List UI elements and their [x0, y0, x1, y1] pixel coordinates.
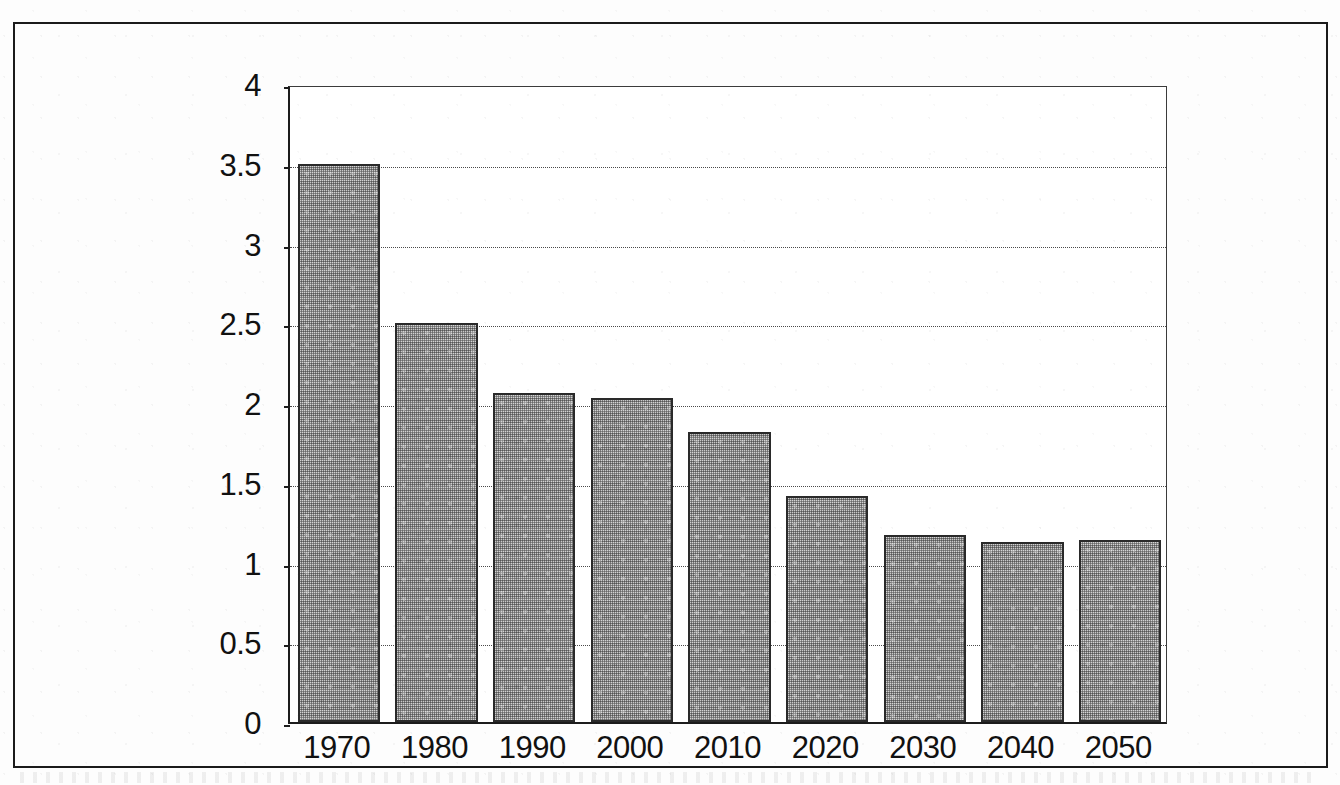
bar-texture [690, 434, 769, 720]
bar-texture [788, 498, 867, 720]
bar-texture [886, 537, 965, 720]
y-axis-tick-label: 3 [244, 228, 261, 264]
bar-texture [495, 395, 574, 720]
bar [786, 496, 869, 722]
y-axis-tick [284, 566, 290, 568]
x-axis-tick-label: 2020 [792, 730, 859, 766]
gridline [290, 167, 1166, 168]
y-axis-tick-label: 2 [244, 387, 261, 423]
x-axis-tick-label: 2030 [889, 730, 956, 766]
bar [298, 164, 381, 722]
y-axis-tick [284, 326, 290, 328]
x-axis-tick-label: 2050 [1085, 730, 1152, 766]
y-axis-tick [284, 247, 290, 249]
gridline [290, 247, 1166, 248]
x-axis-tick-label: 1970 [303, 730, 370, 766]
bar-texture [983, 544, 1062, 720]
bar [591, 398, 674, 722]
y-axis-tick [284, 645, 290, 647]
scan-artifact [20, 772, 1320, 783]
bar [1079, 540, 1162, 722]
x-axis-tick-label: 2000 [596, 730, 663, 766]
x-axis-tick-label: 2040 [987, 730, 1054, 766]
y-axis-tick [284, 167, 290, 169]
x-axis-tick-label: 1990 [499, 730, 566, 766]
y-axis-tick [284, 406, 290, 408]
y-axis-tick-label: 4 [244, 68, 261, 104]
plot-area [288, 86, 1167, 724]
bar [688, 432, 771, 722]
bar-texture [397, 325, 476, 720]
y-axis-tick [284, 725, 290, 727]
bar-texture [593, 400, 672, 720]
y-axis-tick [284, 87, 290, 89]
bar-texture [300, 166, 379, 720]
y-axis-tick-label: 0 [244, 706, 261, 742]
figure-outer-frame: 00.511.522.533.54 1970198019902000201020… [13, 22, 1328, 768]
y-axis-tick-label: 1 [244, 547, 261, 583]
bar [981, 542, 1064, 722]
x-axis-tick-label: 1980 [401, 730, 468, 766]
y-axis-tick-label: 3.5 [219, 148, 261, 184]
bar [493, 393, 576, 722]
bar [395, 323, 478, 722]
y-axis-label-group: 00.511.522.533.54 [15, 86, 277, 724]
y-axis-tick [284, 486, 290, 488]
scanned-page: 00.511.522.533.54 1970198019902000201020… [0, 0, 1340, 785]
x-axis-label-group: 197019801990200020102020203020402050 [288, 730, 1167, 778]
y-axis-tick-label: 2.5 [219, 307, 261, 343]
bar [884, 535, 967, 722]
x-axis-tick-label: 2010 [694, 730, 761, 766]
y-axis-tick-label: 1.5 [219, 467, 261, 503]
y-axis-tick-label: 0.5 [219, 626, 261, 662]
bar-texture [1081, 542, 1160, 720]
